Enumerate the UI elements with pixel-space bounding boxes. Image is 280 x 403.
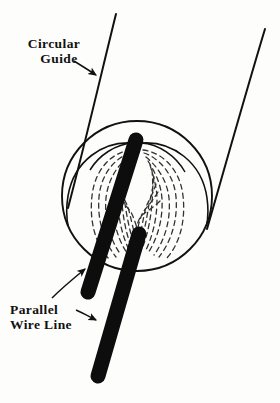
label-circular-guide-line1: Circular xyxy=(14,36,94,51)
label-parallel-wire-line1: Parallel xyxy=(10,302,120,317)
parallel-wire-rods-group xyxy=(88,140,139,376)
guide-line-right xyxy=(207,29,265,229)
field-lobe-lower-arc xyxy=(104,272,168,278)
label-parallel-wire-line: Parallel Wire Line xyxy=(10,302,120,332)
label-circular-guide: Circular Guide xyxy=(14,36,94,66)
arrow-parallel-wire-upper xyxy=(52,269,85,298)
label-parallel-wire-line2: Wire Line xyxy=(10,317,120,332)
guide-lines-group xyxy=(68,14,265,229)
figure-canvas: Circular Guide Parallel Wire Line xyxy=(0,0,280,403)
label-circular-guide-line2: Guide xyxy=(24,51,94,66)
